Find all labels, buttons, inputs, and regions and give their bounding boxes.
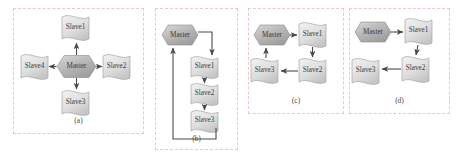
panel-a: Slave1 Slave2 Slave3 Slave4 Master (13, 8, 144, 134)
panel-d-caption: (d) (349, 96, 450, 105)
panel-a-caption: (a) (13, 116, 144, 125)
panel-c: Master Slave1 Slave2 Slave3 (248, 8, 344, 114)
panel-b-caption: (b) (155, 134, 238, 143)
panel-b: Master Slave1 Slave2 Slave3 (155, 8, 238, 150)
panel-b-border (155, 8, 238, 150)
topology-figure: Slave1 Slave2 Slave3 Slave4 Master (0, 0, 459, 163)
panel-d: Master Slave1 Slave2 Slave3 (349, 8, 450, 114)
panel-c-caption: (c) (248, 96, 344, 105)
